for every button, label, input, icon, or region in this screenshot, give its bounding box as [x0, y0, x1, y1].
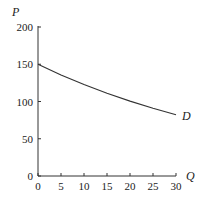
x-tick-label: 20: [125, 180, 137, 192]
x-axis-label: Q: [186, 169, 195, 183]
x-tick-label: 5: [58, 180, 64, 192]
axes: [38, 26, 176, 176]
y-tick-label: 100: [17, 96, 34, 108]
demand-chart: 050100150200 051015202530 P Q D: [0, 0, 200, 204]
x-tick-label: 0: [35, 180, 41, 192]
curve-label-d: D: [181, 109, 191, 123]
y-axis-label: P: [11, 5, 20, 19]
y-tick-label: 0: [28, 170, 34, 182]
x-tick-label: 10: [79, 180, 91, 192]
y-axis-ticks: 050100150200: [17, 21, 42, 182]
y-tick-label: 200: [17, 21, 34, 33]
x-tick-label: 30: [171, 180, 183, 192]
y-tick-label: 150: [17, 58, 34, 70]
y-tick-label: 50: [22, 133, 34, 145]
x-tick-label: 15: [102, 180, 114, 192]
demand-curve: [38, 64, 176, 114]
x-tick-label: 25: [148, 180, 160, 192]
